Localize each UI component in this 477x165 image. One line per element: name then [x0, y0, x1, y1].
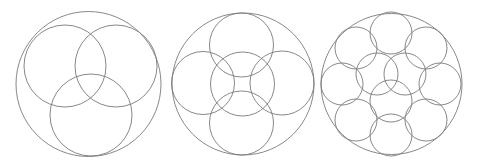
inner-circle [250, 51, 314, 115]
inner-circle [24, 25, 106, 107]
outer-circle [172, 13, 314, 155]
inner-circle [172, 52, 235, 115]
inner-circle [210, 91, 274, 155]
outer-circle [16, 12, 161, 157]
inner-circle [370, 12, 412, 54]
circle-packing-figure [0, 0, 477, 165]
inner-circle [211, 52, 275, 116]
inner-circle [75, 25, 157, 107]
inner-circle [384, 53, 426, 95]
inner-circle [370, 80, 412, 122]
diagram-five-circles [172, 13, 315, 155]
inner-circle [210, 13, 274, 77]
outer-circle [321, 14, 462, 155]
circle-diagrams-canvas [0, 0, 477, 165]
inner-circle [356, 53, 398, 95]
diagram-three-circles [16, 12, 161, 157]
inner-circle [50, 74, 132, 156]
inner-circle [370, 114, 412, 156]
diagram-eleven-circles [321, 12, 462, 156]
